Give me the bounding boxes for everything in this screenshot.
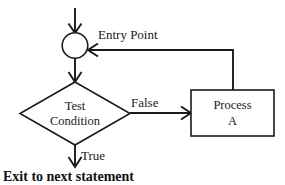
entry-point-label: Entry Point [98,27,158,42]
true-branch-label: True [81,148,105,163]
process-label-line2: A [228,114,237,128]
decision-label-line2: Condition [50,114,101,128]
flowchart-diagram: Test Condition Process A Entry Point Fal… [0,0,285,185]
process-label-line1: Process [213,98,251,112]
exit-statement-text: Exit to next statement [3,169,134,184]
false-branch-label: False [131,95,159,110]
decision-label-line1: Test [65,99,86,113]
